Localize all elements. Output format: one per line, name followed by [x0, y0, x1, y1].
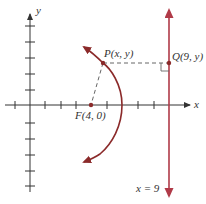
point-q: Q(9, y): [167, 50, 204, 65]
directrix-line: x = 9: [135, 10, 169, 196]
point-f-label: F(4, 0): [74, 109, 106, 122]
y-axis-label: y: [35, 4, 41, 16]
pf-dashed-line: [91, 63, 103, 105]
parabola-diagram: x y x = 9: [0, 0, 206, 204]
point-p: P(x, y): [101, 47, 134, 65]
distance-lines: [91, 63, 169, 105]
point-q-label: Q(9, y): [172, 50, 203, 63]
directrix-label: x = 9: [135, 182, 160, 194]
point-f: F(4, 0): [74, 103, 106, 122]
point-p-label: P(x, y): [103, 47, 134, 60]
y-axis: y: [25, 4, 41, 192]
x-axis-label: x: [193, 98, 199, 110]
